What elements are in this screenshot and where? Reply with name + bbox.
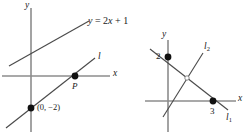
line-l	[6, 58, 95, 128]
line-equation-label: y = 2x + 1	[88, 16, 128, 26]
eq-plus: +	[113, 15, 124, 26]
eq-sign: =	[92, 15, 103, 26]
right-x-axis-label: x	[238, 94, 242, 104]
point-x-intercept-3-dot	[210, 98, 217, 105]
line-l2-label: l2	[204, 42, 210, 52]
left-panel-axes	[2, 8, 110, 132]
right-angle-marker	[185, 76, 189, 80]
eq-intercept: 1	[123, 15, 128, 26]
right-panel-points	[165, 54, 217, 105]
right-panel-lines	[150, 49, 228, 117]
point-P-label: P	[72, 82, 78, 91]
line-l1-label: l1	[226, 113, 232, 123]
point-y-intercept-2-label: 2	[156, 52, 161, 61]
line-y-equals-2x-plus-1	[9, 21, 89, 66]
line-l1-subscript: 1	[229, 116, 232, 123]
line-l2	[163, 53, 203, 117]
figure-container: y x y = 2x + 1 l P (0, −2) y x l2 l1 2 3	[0, 0, 249, 137]
left-line-l-label: l	[98, 52, 101, 62]
point-0-minus-2-label: (0, −2)	[37, 103, 60, 112]
line-l2-subscript: 2	[207, 45, 210, 52]
left-y-axis-label: y	[25, 1, 29, 11]
point-x-intercept-3-label: 3	[210, 107, 215, 116]
left-x-axis-label: x	[113, 69, 117, 79]
right-y-axis-label: y	[162, 30, 166, 40]
point-0-minus-2-dot	[28, 105, 35, 112]
point-P-dot	[72, 73, 79, 80]
point-y-intercept-2-dot	[165, 54, 172, 61]
